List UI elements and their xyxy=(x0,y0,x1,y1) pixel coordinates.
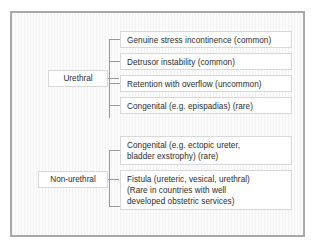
node-congenital-epispadias[interactable]: Congenital (e.g. epispadias) (rare) xyxy=(120,97,292,114)
node-detrusor-instability[interactable]: Detrusor instability (common) xyxy=(120,53,292,70)
connector-urethral-branch-4 xyxy=(109,105,120,106)
category-label-non-urethral: Non-urethral xyxy=(50,174,96,185)
category-label-urethral: Urethral xyxy=(63,73,92,84)
node-retention-with-overflow[interactable]: Retention with overflow (uncommon) xyxy=(120,75,292,92)
node-genuine-stress-incontinence[interactable]: Genuine stress incontinence (common) xyxy=(120,31,292,48)
category-box-urethral[interactable]: Urethral xyxy=(48,70,108,87)
connector-non-urethral-branch-2 xyxy=(109,206,120,207)
connector-non-urethral-trunk xyxy=(109,150,110,206)
category-box-non-urethral[interactable]: Non-urethral xyxy=(38,171,108,188)
connector-urethral-branch-3 xyxy=(109,83,120,84)
diagram-root: Urethral Genuine stress incontinence (co… xyxy=(0,0,319,248)
connector-urethral-branch-2 xyxy=(109,61,120,62)
connector-urethral-branch-1 xyxy=(109,39,120,40)
node-congenital-ectopic-ureter[interactable]: Congenital (e.g. ectopic ureter, bladder… xyxy=(120,136,292,165)
node-fistula[interactable]: Fistula (ureteric, vesical, urethral) (R… xyxy=(120,170,292,210)
connector-urethral-trunk xyxy=(109,39,110,118)
connector-non-urethral-branch-1 xyxy=(109,150,120,151)
diagram-panel: Urethral Genuine stress incontinence (co… xyxy=(10,11,305,237)
